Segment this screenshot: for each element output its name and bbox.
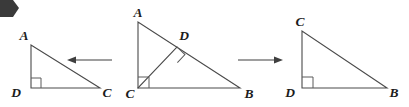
arrow-left-group [67, 56, 112, 63]
geometry-figure: A D C A D C B [0, 0, 409, 107]
triangle-ACB-group: A D C B [125, 5, 253, 101]
vertex-label-D-right: D [284, 85, 295, 100]
vertex-label-B-middle: B [243, 86, 253, 101]
altitude-segment-CD [138, 47, 177, 88]
vertex-label-C-middle: C [125, 86, 135, 101]
arrow-right-head [274, 56, 283, 63]
figure-canvas: A D C A D C B [0, 0, 409, 107]
triangle-ACB-outline [138, 22, 240, 88]
page-corner-marker [0, 0, 19, 17]
arrow-right-group [238, 56, 283, 63]
vertex-label-D-left: D [10, 85, 21, 100]
right-angle-marker-D-middle [169, 47, 185, 63]
vertex-label-B-right: B [388, 85, 398, 100]
vertex-label-A-left: A [18, 28, 28, 43]
vertex-label-C-left: C [102, 85, 112, 100]
vertex-label-C-right: C [295, 14, 305, 29]
triangle-CDB-outline [302, 31, 387, 88]
vertex-label-D-middle: D [178, 28, 189, 43]
arrow-left-head [67, 56, 76, 63]
vertex-label-A-middle: A [132, 5, 142, 20]
right-angle-marker-D-left [31, 78, 41, 88]
triangle-ADC-group: A D C [10, 28, 112, 100]
right-angle-marker-D-right [302, 77, 313, 88]
triangle-CDB-group: C D B [284, 14, 398, 100]
